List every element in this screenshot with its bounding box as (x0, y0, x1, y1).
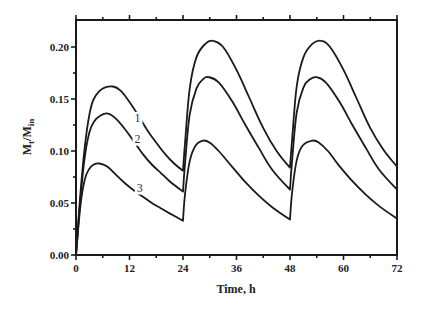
x-tick-label: 0 (73, 262, 79, 274)
y-tick-label: 0.20 (50, 41, 70, 53)
x-tick-label: 12 (124, 262, 136, 274)
curve-label-2: 2 (135, 132, 141, 146)
curve-3 (76, 140, 397, 255)
data-curves (76, 41, 397, 255)
release-kinetics-chart: 123 0122436486072 0.000.050.100.150.20 T… (0, 0, 424, 311)
y-tick-label: 0.15 (50, 93, 70, 105)
x-tick-label: 36 (231, 262, 243, 274)
plot-frame (76, 20, 397, 255)
y-axis-title-main: M (20, 144, 34, 155)
x-axis-title: Time, h (216, 282, 255, 296)
x-tick-label: 48 (285, 262, 297, 274)
curve-label-3: 3 (137, 181, 143, 195)
x-tick-label: 72 (392, 262, 404, 274)
x-tick-label: 24 (178, 262, 190, 274)
y-tick-label: 0.05 (50, 197, 70, 209)
curve-2 (76, 77, 397, 255)
curve-1 (76, 41, 397, 255)
y-axis-ticks: 0.000.050.100.150.20 (50, 41, 76, 261)
y-axis-title: Mt/Min (20, 119, 36, 156)
y-tick-label: 0.00 (50, 249, 70, 261)
y-axis-title-sep: /M (20, 126, 34, 142)
curve-label-1: 1 (135, 111, 141, 125)
y-tick-label: 0.10 (50, 145, 70, 157)
x-axis-ticks: 0122436486072 (73, 15, 403, 274)
y-axis-title-sub-in: in (26, 119, 36, 127)
x-tick-label: 60 (338, 262, 350, 274)
